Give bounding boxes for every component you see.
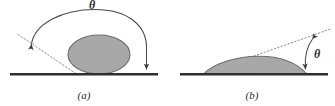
panel-b-theta-label: θ [314,47,321,61]
panel-a-droplet [68,35,130,74]
panel-b-angle-arc [305,39,312,69]
panel-b: θ (b) [180,29,332,103]
panel-a-theta-label: θ [89,0,96,12]
figure-canvas: θ (a) θ (b) [0,0,335,106]
panel-a-caption: (a) [78,89,91,102]
panel-b-droplet [204,56,308,74]
panel-b-caption: (b) [246,89,259,102]
panel-a: θ (a) [10,0,158,102]
contact-angle-figure: θ (a) θ (b) [0,0,335,106]
